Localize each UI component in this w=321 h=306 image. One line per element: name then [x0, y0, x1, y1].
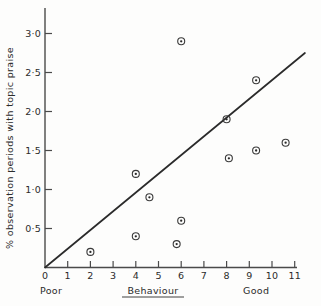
y-tick-label-4: 2·5	[25, 67, 41, 78]
y-tick-label-1: 1·0	[25, 184, 41, 195]
data-point	[253, 77, 260, 84]
x-axis-title: Behaviour	[128, 285, 179, 296]
x-tick-label-6: 6	[178, 270, 184, 281]
y-axis-title: % observation periods with topic praise	[4, 47, 15, 249]
data-point	[178, 217, 185, 224]
x-tick-label-9: 9	[246, 270, 252, 281]
y-axis-group: 0·51·01·52·02·53·0	[25, 8, 52, 268]
y-tick-label-2: 1·5	[25, 145, 41, 156]
data-point	[173, 241, 180, 248]
x-tick-labels: 01234567891011	[42, 270, 301, 281]
data-point	[132, 233, 139, 240]
x-tick-label-5: 5	[155, 270, 161, 281]
data-point	[87, 248, 94, 255]
y-tick-label-5: 3·0	[25, 28, 41, 39]
x-tick-label-8: 8	[223, 270, 229, 281]
y-tick-label-0: 0·5	[25, 223, 41, 234]
x-tick-label-11: 11	[288, 270, 301, 281]
x-tick-label-4: 4	[133, 270, 139, 281]
y-tick-label-3: 2·0	[25, 106, 41, 117]
x-tick-label-0: 0	[42, 270, 48, 281]
x-axis-anchor-high-label: Good	[243, 285, 269, 296]
x-tick-label-2: 2	[87, 270, 93, 281]
scatter-plot-figure: 0·51·01·52·02·53·0 01234567891011 % obse…	[0, 0, 321, 306]
data-point	[282, 139, 289, 146]
plot-canvas: 0·51·01·52·02·53·0 01234567891011 % obse…	[0, 0, 321, 306]
x-tick-label-3: 3	[110, 270, 116, 281]
x-tick-label-1: 1	[65, 270, 71, 281]
x-axis-group: 01234567891011	[42, 261, 301, 281]
trend-line-segment	[45, 53, 305, 268]
x-tick-label-7: 7	[201, 270, 207, 281]
data-point	[225, 155, 232, 162]
data-point	[178, 38, 185, 45]
regression-trend-line	[45, 53, 305, 268]
x-axis-anchor-low-label: Poor	[40, 285, 62, 296]
data-point	[253, 147, 260, 154]
data-point-markers	[87, 38, 289, 256]
data-point	[132, 170, 139, 177]
data-point	[146, 194, 153, 201]
x-tick-label-10: 10	[266, 270, 279, 281]
x-tick-marks	[68, 261, 295, 268]
y-tick-labels: 0·51·01·52·02·53·0	[25, 28, 41, 234]
y-tick-marks	[45, 34, 52, 229]
